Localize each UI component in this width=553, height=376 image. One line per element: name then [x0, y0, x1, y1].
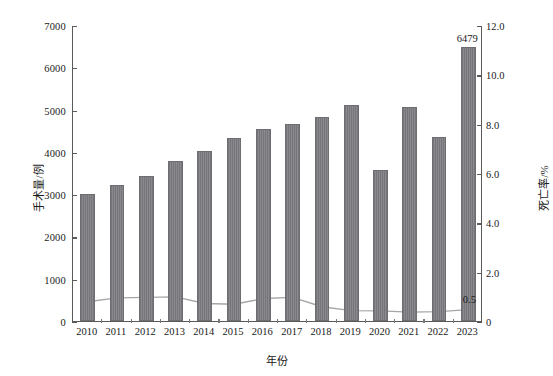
y-axis-left-ticks: 01000200030004000500060007000 [0, 0, 66, 376]
x-axis-tick-label: 2014 [193, 326, 214, 337]
y-axis-right-ticks: 02.04.06.08.010.012.0 [486, 0, 546, 376]
x-axis-tick-mark [131, 319, 132, 323]
y-axis-left-tick-mark [72, 153, 77, 154]
y-axis-right-tick-label: 6.0 [486, 169, 499, 180]
chart-container: 手术量/例 死亡率/% 年份 0100020003000400050006000… [0, 0, 553, 376]
bar [256, 129, 271, 321]
x-axis-tick-mark [365, 319, 366, 323]
bar [227, 138, 242, 321]
x-axis-tick-label: 2018 [310, 326, 331, 337]
x-axis-tick-label: 2021 [398, 326, 419, 337]
x-axis-tick-mark [453, 319, 454, 323]
y-axis-left-tick-mark [72, 237, 77, 238]
plot-area [72, 26, 482, 322]
mortality-rate-line [73, 26, 483, 322]
y-axis-right-tick-mark [477, 125, 482, 126]
y-axis-right-tick-label: 8.0 [486, 119, 499, 130]
y-axis-left-tick-mark [72, 280, 77, 281]
x-axis-tick-label: 2019 [340, 326, 361, 337]
y-axis-left-tick-label: 5000 [44, 105, 66, 116]
y-axis-left-tick-label: 6000 [44, 63, 66, 74]
bar [80, 194, 95, 321]
x-axis-tick-label: 2020 [369, 326, 390, 337]
x-axis-tick-mark [101, 319, 102, 323]
x-axis-tick-label: 2016 [252, 326, 273, 337]
bar [344, 105, 359, 322]
x-axis-tick-label: 2012 [135, 326, 156, 337]
y-axis-left-tick-mark [72, 68, 77, 69]
bar [197, 151, 212, 321]
x-axis-tick-label: 2017 [281, 326, 302, 337]
y-axis-right-tick-label: 12.0 [486, 21, 504, 32]
x-axis-tick-label: 2013 [164, 326, 185, 337]
y-axis-left-tick-label: 3000 [44, 190, 66, 201]
x-axis-tick-label: 2023 [457, 326, 478, 337]
x-axis-tick-mark [336, 319, 337, 323]
y-axis-right-tick-mark [477, 26, 482, 27]
bar [285, 124, 300, 321]
x-axis-tick-mark [248, 319, 249, 323]
bar-value-label: 6479 [457, 33, 478, 44]
y-axis-right-tick-label: 4.0 [486, 218, 499, 229]
x-axis-tick-mark [218, 319, 219, 323]
x-axis-tick-mark [394, 319, 395, 323]
y-axis-left-tick-mark [72, 195, 77, 196]
y-axis-left-tick-mark [72, 111, 77, 112]
x-axis-title: 年份 [0, 352, 553, 368]
x-axis-tick-label: 2011 [106, 326, 127, 337]
bar [315, 117, 330, 321]
y-axis-left-tick-label: 4000 [44, 147, 66, 158]
x-axis-tick-mark [277, 319, 278, 323]
y-axis-right-tick-label: 2.0 [486, 267, 499, 278]
x-axis-tick-mark [189, 319, 190, 323]
bar [461, 47, 476, 321]
mortality-value-label: 0.5 [463, 294, 476, 305]
y-axis-right-tick-mark [477, 75, 482, 76]
bar [110, 185, 125, 321]
x-axis-tick-mark [160, 319, 161, 323]
bar [168, 161, 183, 321]
y-axis-right-tick-mark [477, 223, 482, 224]
x-axis-tick-label: 2015 [223, 326, 244, 337]
bar [139, 176, 154, 321]
y-axis-left-tick-mark [72, 322, 77, 323]
x-axis-tick-label: 2022 [428, 326, 449, 337]
y-axis-left-tick-label: 1000 [44, 274, 66, 285]
y-axis-left-tick-label: 2000 [44, 232, 66, 243]
y-axis-left-tick-label: 0 [61, 317, 66, 328]
y-axis-right-tick-mark [477, 322, 482, 323]
x-axis-tick-label: 2010 [76, 326, 97, 337]
y-axis-right-tick-label: 0 [486, 317, 491, 328]
y-axis-left-tick-label: 7000 [44, 21, 66, 32]
x-axis-tick-mark [423, 319, 424, 323]
y-axis-right-tick-mark [477, 273, 482, 274]
bar [432, 137, 447, 321]
y-axis-left-tick-mark [72, 26, 77, 27]
x-axis-tick-mark [306, 319, 307, 323]
y-axis-right-tick-label: 10.0 [486, 70, 504, 81]
y-axis-right-tick-mark [477, 174, 482, 175]
bar [373, 170, 388, 321]
bar [402, 107, 417, 321]
